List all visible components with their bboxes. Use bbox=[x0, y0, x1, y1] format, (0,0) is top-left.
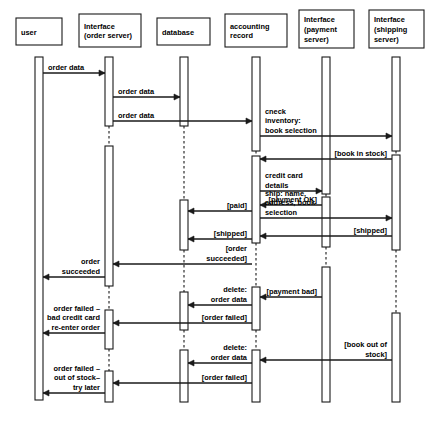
message-m19: delete:order data bbox=[188, 343, 252, 366]
message-arrow-layer: order dataorder dataorder datacneckinven… bbox=[43, 63, 392, 396]
participant-header-layer: userInterface(order server)databaseaccou… bbox=[16, 10, 424, 48]
message-arrowhead bbox=[43, 330, 49, 336]
message-arrowhead bbox=[260, 294, 266, 300]
message-label-line: inventory: bbox=[265, 116, 301, 125]
message-label-line: order data bbox=[118, 111, 155, 120]
message-arrowhead bbox=[43, 274, 49, 280]
message-label: ship: name,address, bookselection bbox=[265, 189, 316, 217]
participant-label-line: Interface bbox=[374, 15, 405, 24]
message-label: [order failed] bbox=[202, 373, 248, 382]
message-label-line: delete: bbox=[223, 285, 247, 294]
message-label: order data bbox=[48, 63, 85, 72]
participant-label: database bbox=[162, 28, 194, 37]
message-label-line: order failed – bbox=[54, 304, 100, 313]
message-label-line: delete: bbox=[223, 343, 247, 352]
message-label-line: selection bbox=[265, 208, 298, 217]
message-label: [order failed] bbox=[202, 313, 248, 322]
activation-bar-database bbox=[180, 200, 188, 250]
message-label: credit carddetails bbox=[265, 171, 303, 190]
sequence-diagram-canvas: order dataorder dataorder datacneckinven… bbox=[0, 0, 437, 425]
message-arrowhead bbox=[316, 188, 322, 194]
activation-bar-shipsrv bbox=[392, 57, 400, 151]
activation-bar-paymentsrv bbox=[322, 197, 330, 247]
message-label-line: order bbox=[81, 257, 100, 266]
participant-label-line: server) bbox=[304, 35, 329, 44]
message-arrowhead bbox=[188, 360, 194, 366]
message-label-line: [order failed] bbox=[202, 373, 248, 382]
activation-bar-ordersrv bbox=[105, 310, 113, 349]
message-label-line: stock] bbox=[365, 350, 387, 359]
message-label: [shipped] bbox=[214, 229, 248, 238]
message-label-line: book selection bbox=[265, 126, 317, 135]
message-label-line: succeeded] bbox=[206, 254, 247, 263]
message-label: order data bbox=[118, 111, 155, 120]
activation-bar-ordersrv bbox=[105, 371, 113, 402]
participant-label-line: server) bbox=[374, 35, 399, 44]
participant-label-line: record bbox=[230, 31, 253, 40]
message-label: cneckinventory:book selection bbox=[265, 107, 317, 135]
message-label-line: order failed – bbox=[54, 364, 100, 373]
activation-bar-database bbox=[180, 350, 188, 402]
participant-ordersrv[interactable]: Interface(order server) bbox=[79, 14, 141, 47]
activation-bar-user bbox=[35, 57, 43, 400]
participant-label-line: accounting bbox=[230, 22, 270, 31]
message-label-line: try later bbox=[73, 383, 100, 392]
message-m14: [payment bad] bbox=[260, 287, 322, 300]
message-label: delete:order data bbox=[211, 285, 248, 304]
message-arrowhead bbox=[99, 70, 105, 76]
message-label-line: [shipped] bbox=[354, 226, 388, 235]
message-label-line: [order bbox=[226, 244, 247, 253]
message-label-line: out of stock– bbox=[54, 373, 100, 382]
participant-shipsrv[interactable]: Interface(shippingserver) bbox=[369, 10, 424, 48]
message-arrowhead bbox=[43, 390, 49, 396]
message-label: [paid] bbox=[227, 201, 248, 210]
message-arrowhead bbox=[386, 133, 392, 139]
message-arrowhead bbox=[246, 118, 252, 124]
activation-bar-ordersrv bbox=[105, 146, 113, 286]
message-label: [payment bad] bbox=[266, 287, 317, 296]
message-m11: [shipped] bbox=[188, 229, 252, 242]
message-m21: order failed –out of stock–try later bbox=[43, 364, 105, 396]
message-label-line: order data bbox=[211, 353, 248, 362]
message-label-line: cneck bbox=[265, 107, 287, 116]
participant-user[interactable]: user bbox=[16, 18, 62, 45]
message-arrowhead bbox=[188, 236, 194, 242]
sequence-diagram-svg: order dataorder dataorder datacneckinven… bbox=[0, 0, 437, 425]
activation-bar-accounting bbox=[252, 57, 260, 151]
message-label: delete:order data bbox=[211, 343, 248, 362]
activation-bar-accounting bbox=[252, 287, 260, 330]
message-arrowhead bbox=[386, 215, 392, 221]
message-label-line: [order failed] bbox=[202, 313, 248, 322]
message-m15: delete:order data bbox=[188, 285, 252, 308]
message-label-line: order data bbox=[118, 87, 155, 96]
message-label: [shipped] bbox=[354, 226, 388, 235]
participant-label-line: (payment bbox=[304, 25, 337, 34]
participant-paymentsrv[interactable]: Interface(paymentserver) bbox=[299, 10, 354, 48]
activation-bar-shipsrv bbox=[392, 155, 400, 250]
participant-database[interactable]: database bbox=[157, 18, 210, 45]
message-label-line: bad credit card bbox=[47, 313, 100, 322]
activation-bar-paymentsrv bbox=[322, 267, 330, 402]
participant-accounting[interactable]: accountingrecord bbox=[225, 14, 287, 47]
activation-bar-ordersrv bbox=[105, 57, 113, 126]
participant-label-line: database bbox=[162, 28, 194, 37]
message-label-line: order data bbox=[211, 295, 248, 304]
activation-bar-shipsrv bbox=[392, 313, 400, 402]
participant-label-line: (order server) bbox=[84, 31, 133, 40]
message-label-line: [book out of bbox=[344, 340, 387, 349]
message-label-line: address, book bbox=[265, 198, 316, 207]
message-label-line: ship: name, bbox=[265, 189, 306, 198]
message-label: [book in stock] bbox=[334, 149, 387, 158]
message-arrowhead bbox=[188, 302, 194, 308]
message-arrowhead bbox=[174, 94, 180, 100]
participant-label-line: user bbox=[21, 28, 37, 37]
participant-label-line: Interface bbox=[304, 15, 335, 24]
activation-bar-database bbox=[180, 292, 188, 330]
message-arrowhead bbox=[260, 357, 266, 363]
message-label-line: succeeded bbox=[62, 267, 101, 276]
message-label: order failed –bad credit cardre-enter or… bbox=[47, 304, 100, 332]
message-label-line: [book in stock] bbox=[334, 149, 387, 158]
message-arrowhead bbox=[260, 233, 266, 239]
message-label-line: order data bbox=[48, 63, 85, 72]
message-label: order data bbox=[118, 87, 155, 96]
